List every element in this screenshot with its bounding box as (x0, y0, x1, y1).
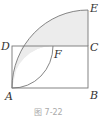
label-b: B (89, 89, 98, 102)
arc-af (12, 46, 53, 88)
figure-caption: 图 7-22 (34, 108, 63, 117)
shaded-region-lower (12, 46, 53, 88)
label-f: F (53, 48, 62, 61)
geometry-figure: E D C F A B 图 7-22 (0, 0, 99, 118)
label-e: E (89, 2, 98, 15)
label-c: C (90, 41, 99, 54)
label-a: A (4, 90, 13, 103)
label-d: D (0, 40, 10, 53)
